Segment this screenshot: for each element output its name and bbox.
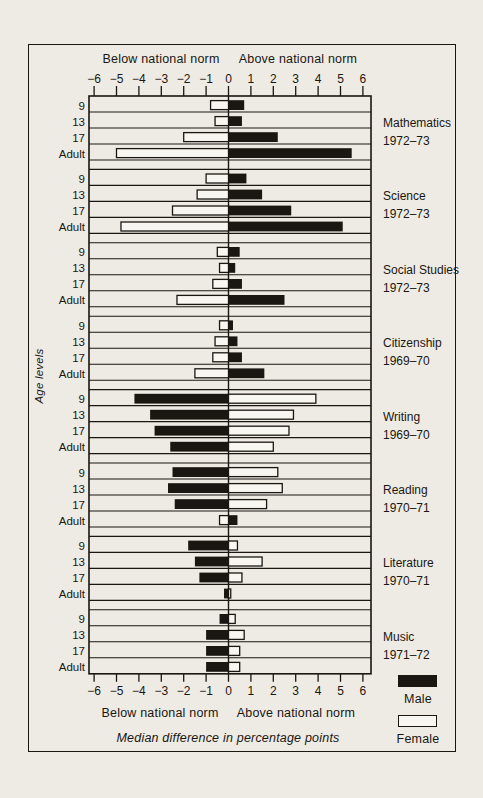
bar-female-music-adult	[229, 662, 240, 671]
bar-male-literature-13	[195, 557, 229, 567]
bottom-tick-label: −5	[110, 684, 124, 698]
bottom-tick-label: 1	[248, 684, 255, 698]
top-tick-label: −2	[177, 72, 191, 86]
bar-female-reading-17	[229, 500, 267, 509]
bar-female-citizenship-17	[213, 353, 229, 362]
age-label: 9	[79, 393, 85, 405]
bar-female-reading-adult	[220, 516, 229, 525]
age-label: 9	[79, 246, 85, 258]
bar-male-citizenship-adult	[229, 368, 265, 378]
subject-years-label: 1972–73	[383, 207, 430, 221]
bar-female-citizenship-13	[215, 337, 228, 346]
age-label: 17	[72, 352, 85, 364]
age-label: Adult	[59, 588, 86, 600]
top-tick-label: −1	[199, 72, 213, 86]
bottom-tick-label: 2	[270, 684, 277, 698]
subject-label: Literature	[383, 556, 434, 570]
bar-male-mathematics-9	[229, 100, 245, 110]
bar-female-literature-13	[229, 557, 263, 566]
bar-male-social-studies-13	[229, 263, 236, 273]
subject-years-label: 1970–71	[383, 501, 430, 515]
subject-years-label: 1969–70	[383, 428, 430, 442]
bar-male-social-studies-adult	[229, 295, 285, 305]
subject-years-label: 1970–71	[383, 574, 430, 588]
bottom-tick-label: 5	[337, 684, 344, 698]
subject-label: Music	[383, 630, 414, 644]
bar-male-citizenship-17	[229, 352, 242, 362]
subject-label: Citizenship	[383, 336, 442, 350]
subject-label: Writing	[383, 410, 420, 424]
age-label: Adult	[59, 661, 86, 673]
bar-male-writing-17	[155, 426, 229, 436]
subject-label: Mathematics	[383, 116, 451, 130]
subject-label: Reading	[383, 483, 428, 497]
legend-female-label: Female	[390, 732, 446, 746]
bar-male-writing-13	[150, 410, 228, 420]
age-label: 9	[79, 100, 85, 112]
top-tick-label: 2	[270, 72, 277, 86]
bar-female-social-studies-9	[217, 247, 228, 256]
bar-male-science-13	[229, 190, 263, 200]
bottom-tick-label: 3	[292, 684, 299, 698]
bar-male-reading-9	[173, 467, 229, 477]
bar-male-music-13	[206, 630, 228, 640]
bar-female-mathematics-17	[184, 133, 229, 142]
subject-label: Science	[383, 189, 426, 203]
top-tick-label: 6	[360, 72, 367, 86]
bar-female-reading-13	[229, 484, 283, 493]
bottom-tick-label: 0	[225, 684, 232, 698]
bar-female-literature-9	[229, 541, 238, 550]
bar-male-mathematics-13	[229, 116, 242, 126]
top-tick-label: 5	[337, 72, 344, 86]
x-axis-title: Median difference in percentage points	[103, 731, 353, 745]
bar-female-literature-adult	[229, 589, 231, 598]
age-label: Adult	[59, 368, 86, 380]
age-label: 13	[72, 336, 85, 348]
bar-female-writing-adult	[229, 442, 274, 451]
age-label: 13	[72, 629, 85, 641]
bar-female-science-17	[173, 206, 229, 215]
bar-female-music-17	[229, 646, 240, 655]
bar-male-mathematics-17	[229, 132, 278, 142]
bottom-above-norm-label: Above national norm	[221, 706, 371, 720]
bar-male-science-17	[229, 206, 292, 216]
legend-female-swatch	[398, 715, 437, 727]
age-label: 9	[79, 540, 85, 552]
bottom-tick-label: −4	[132, 684, 146, 698]
bar-female-social-studies-adult	[177, 295, 229, 304]
age-label: 17	[72, 278, 85, 290]
age-label: 13	[72, 189, 85, 201]
bottom-tick-label: 4	[315, 684, 322, 698]
bar-female-citizenship-adult	[195, 369, 229, 378]
bar-female-social-studies-13	[220, 263, 229, 272]
subject-years-label: 1972–73	[383, 281, 430, 295]
age-label: 9	[79, 613, 85, 625]
age-label: 9	[79, 173, 85, 185]
bar-female-writing-17	[229, 426, 289, 435]
age-label: 17	[72, 425, 85, 437]
bar-female-science-adult	[121, 222, 229, 231]
bar-female-mathematics-9	[211, 101, 229, 110]
top-tick-label: −5	[110, 72, 124, 86]
bar-male-social-studies-17	[229, 279, 242, 289]
bar-female-writing-13	[229, 410, 294, 419]
age-label: 13	[72, 483, 85, 495]
bottom-tick-label: −3	[154, 684, 168, 698]
age-label: 13	[72, 556, 85, 568]
legend-male-label: Male	[390, 692, 446, 706]
bottom-tick-label: −2	[177, 684, 191, 698]
subject-label: Social Studies	[383, 263, 459, 277]
age-label: 17	[72, 572, 85, 584]
bar-female-science-13	[197, 190, 228, 199]
bar-female-social-studies-17	[213, 279, 229, 288]
bar-female-music-9	[229, 614, 236, 623]
subject-years-label: 1969–70	[383, 354, 430, 368]
bar-female-mathematics-13	[215, 117, 228, 126]
age-label: Adult	[59, 515, 86, 527]
bottom-tick-label: 6	[360, 684, 367, 698]
age-label: 13	[72, 409, 85, 421]
figure-page: Below national norm Above national norm …	[0, 0, 483, 798]
bar-male-citizenship-9	[229, 320, 233, 330]
subject-years-label: 1971–72	[383, 648, 430, 662]
bar-male-literature-9	[188, 541, 228, 551]
